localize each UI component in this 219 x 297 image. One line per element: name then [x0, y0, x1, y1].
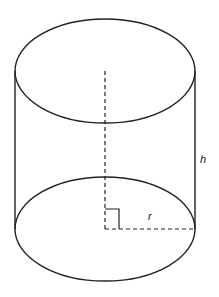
height-label: h — [200, 153, 206, 165]
radius-label: r — [148, 210, 153, 222]
right-angle-marker — [105, 209, 119, 229]
cylinder-diagram: h r — [0, 0, 219, 297]
